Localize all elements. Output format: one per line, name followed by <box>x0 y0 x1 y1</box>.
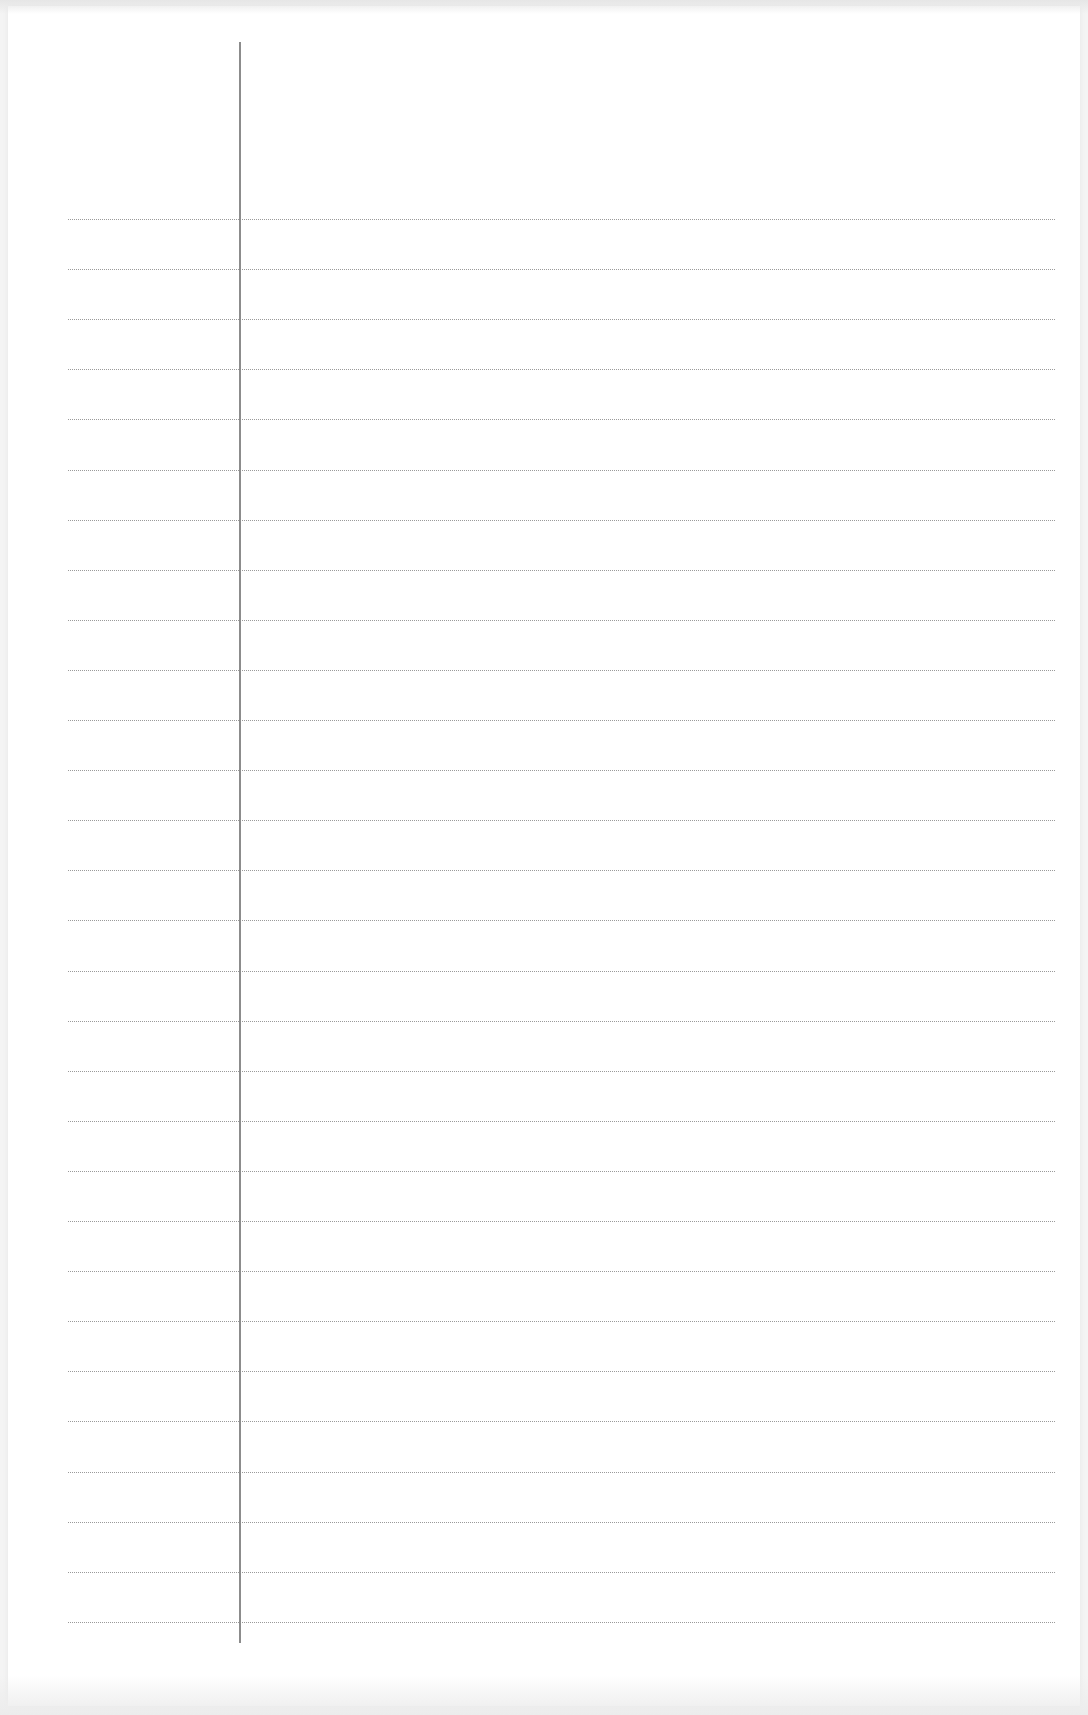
margin-line <box>239 42 241 1643</box>
ruled-line <box>68 620 1055 621</box>
ruled-line <box>68 1171 1055 1172</box>
ruled-line <box>68 1472 1055 1473</box>
ruled-line <box>68 1371 1055 1372</box>
notebook-page <box>8 6 1080 1706</box>
ruled-line <box>68 520 1055 521</box>
ruled-line <box>68 920 1055 921</box>
ruled-line <box>68 1421 1055 1422</box>
ruled-line <box>68 269 1055 270</box>
page-bottom-edge <box>0 1675 1088 1715</box>
ruled-line <box>68 1121 1055 1122</box>
ruled-line <box>68 1271 1055 1272</box>
ruled-line <box>68 720 1055 721</box>
ruled-line <box>68 820 1055 821</box>
ruled-line <box>68 1572 1055 1573</box>
ruled-line <box>68 1221 1055 1222</box>
ruled-line <box>68 1021 1055 1022</box>
ruled-line <box>68 570 1055 571</box>
ruled-line <box>68 470 1055 471</box>
ruled-line <box>68 319 1055 320</box>
page-top-edge <box>0 0 1088 14</box>
ruled-line <box>68 1321 1055 1322</box>
ruled-line <box>68 219 1055 220</box>
ruled-line <box>68 770 1055 771</box>
ruled-line <box>68 369 1055 370</box>
ruled-line <box>68 1522 1055 1523</box>
ruled-line <box>68 1622 1055 1623</box>
ruled-line <box>68 1071 1055 1072</box>
ruled-line <box>68 971 1055 972</box>
ruled-line <box>68 419 1055 420</box>
ruled-line <box>68 670 1055 671</box>
ruled-line <box>68 870 1055 871</box>
